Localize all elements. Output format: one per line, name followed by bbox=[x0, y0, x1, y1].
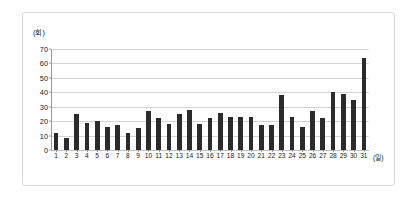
bar bbox=[136, 128, 141, 150]
bar bbox=[105, 127, 110, 150]
bar bbox=[167, 124, 172, 150]
bar-series bbox=[51, 49, 369, 150]
bar bbox=[249, 117, 254, 150]
x-tick-label: 21 bbox=[258, 152, 265, 159]
bar bbox=[54, 133, 59, 150]
bar bbox=[341, 94, 346, 150]
bar bbox=[197, 124, 202, 150]
bar bbox=[259, 125, 264, 150]
x-tick-label: 30 bbox=[350, 152, 357, 159]
bar bbox=[208, 118, 213, 150]
bar bbox=[156, 118, 161, 150]
x-tick-label: 15 bbox=[196, 152, 203, 159]
y-tick-label: 10 bbox=[40, 131, 48, 140]
x-tick-label: 12 bbox=[165, 152, 172, 159]
bar bbox=[300, 127, 305, 150]
x-tick-label: 11 bbox=[155, 152, 162, 159]
bar bbox=[320, 118, 325, 150]
x-tick-label: 13 bbox=[176, 152, 183, 159]
x-tick-label: 20 bbox=[247, 152, 254, 159]
bar bbox=[177, 114, 182, 150]
bar bbox=[290, 117, 295, 150]
x-tick-label: 7 bbox=[116, 152, 120, 159]
x-tick-label: 9 bbox=[136, 152, 140, 159]
x-axis-ticks: 1234567891011121314151617181920212223242… bbox=[51, 152, 369, 164]
bar bbox=[351, 100, 356, 151]
bar bbox=[74, 114, 79, 150]
bar bbox=[362, 58, 367, 150]
x-tick-label: 17 bbox=[217, 152, 224, 159]
bar bbox=[115, 125, 120, 150]
x-tick-label: 5 bbox=[95, 152, 99, 159]
x-tick-label: 19 bbox=[237, 152, 244, 159]
x-tick-label: 18 bbox=[227, 152, 234, 159]
x-tick-label: 29 bbox=[340, 152, 347, 159]
x-tick-label: 26 bbox=[309, 152, 316, 159]
chart-figure-frame: (회) 010203040506070 12345678910111213141… bbox=[22, 12, 395, 186]
x-tick-label: 25 bbox=[299, 152, 306, 159]
bar bbox=[126, 133, 131, 150]
y-tick-label: 60 bbox=[40, 59, 48, 68]
y-tick-label: 50 bbox=[40, 73, 48, 82]
bar bbox=[310, 111, 315, 150]
y-tick-label: 40 bbox=[40, 88, 48, 97]
x-tick-label: 31 bbox=[360, 152, 367, 159]
bar bbox=[64, 138, 69, 150]
x-tick-label: 1 bbox=[54, 152, 58, 159]
x-tick-label: 23 bbox=[278, 152, 285, 159]
x-tick-label: 27 bbox=[319, 152, 326, 159]
x-tick-label: 14 bbox=[186, 152, 193, 159]
bar bbox=[187, 110, 192, 150]
x-tick-label: 4 bbox=[85, 152, 89, 159]
bar bbox=[85, 123, 90, 150]
x-tick-label: 2 bbox=[65, 152, 69, 159]
plot-area: 010203040506070 bbox=[51, 49, 369, 150]
bar bbox=[279, 95, 284, 150]
bar bbox=[331, 92, 336, 150]
x-tick-label: 24 bbox=[288, 152, 295, 159]
y-tick-label: 70 bbox=[40, 45, 48, 54]
bar bbox=[146, 111, 151, 150]
x-tick-label: 22 bbox=[268, 152, 275, 159]
y-tick-label: 20 bbox=[40, 117, 48, 126]
x-tick-label: 16 bbox=[206, 152, 213, 159]
x-tick-label: 8 bbox=[126, 152, 130, 159]
x-tick-label: 28 bbox=[329, 152, 336, 159]
x-tick-label: 3 bbox=[75, 152, 79, 159]
bar bbox=[228, 117, 233, 150]
y-tick-label: 30 bbox=[40, 102, 48, 111]
bar bbox=[238, 117, 243, 150]
bar bbox=[269, 125, 274, 150]
y-tick-label: 0 bbox=[44, 146, 48, 155]
bar bbox=[95, 121, 100, 150]
y-axis-unit-label: (회) bbox=[33, 27, 45, 37]
bar bbox=[218, 113, 223, 151]
x-axis-unit-label: (일) bbox=[373, 152, 384, 162]
x-tick-label: 10 bbox=[145, 152, 152, 159]
x-tick-label: 6 bbox=[106, 152, 110, 159]
